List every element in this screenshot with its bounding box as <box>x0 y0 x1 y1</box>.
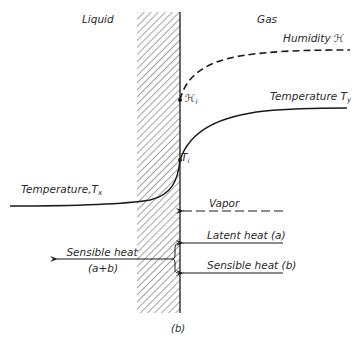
humidity-interface-label: ℋi <box>185 93 197 106</box>
liquid-film-hatch <box>137 12 180 313</box>
interface-diagram <box>0 0 362 340</box>
latent-heat-label: Latent heat (a) <box>207 230 286 241</box>
sensible-heat-liquid-label: Sensible heat <box>66 247 138 258</box>
gas-temperature-curve <box>180 108 347 160</box>
humidity-interface-symbol: ℋ <box>185 92 195 104</box>
interface-temperature-subscript: i <box>187 157 189 165</box>
liquid-temperature-label-text: Temperature, <box>21 183 92 195</box>
sensible-heat-gas-label: Sensible heat (b) <box>207 260 296 271</box>
humidity-label-text: Humidity <box>283 32 331 44</box>
vapor-label: Vapor <box>209 198 239 209</box>
gas-temperature-label-text: Temperature <box>270 90 337 102</box>
liquid-temperature-subscript: x <box>98 189 102 197</box>
figure-caption: (b) <box>171 324 185 334</box>
gas-temperature-label: Temperature Ty <box>270 91 351 104</box>
gas-temperature-subscript: y <box>347 96 351 104</box>
liquid-temperature-label: Temperature,Tx <box>21 184 102 197</box>
humidity-interface-subscript: i <box>195 98 197 106</box>
sensible-heat-liquid-line2: (a+b) <box>80 263 126 274</box>
liquid-region-label: Liquid <box>82 14 114 25</box>
interface-temperature-label: Ti <box>181 152 189 165</box>
humidity-interface-point <box>178 98 182 102</box>
humidity-symbol: ℋ <box>334 32 344 44</box>
humidity-label: Humidity ℋ <box>283 33 344 44</box>
sensible-heat-liquid-line1: Sensible heat <box>66 247 138 258</box>
sensible-heat-liquid-sublabel: (a+b) <box>80 263 126 274</box>
gas-region-label: Gas <box>257 14 277 25</box>
